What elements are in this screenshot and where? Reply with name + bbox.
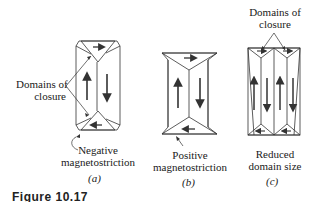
panel-c-caption: (c) — [266, 175, 278, 187]
panel-a-outline — [76, 41, 120, 130]
panel-b-shape — [162, 53, 217, 134]
panel-a-shape — [76, 41, 120, 130]
panel-c-leaders — [262, 33, 285, 50]
panel-b-leader — [178, 139, 183, 146]
label-line: Positive — [150, 149, 230, 161]
panel-c-top-closure-domain-2 — [274, 48, 300, 58]
label-line: Domains of — [238, 6, 312, 18]
label-line: magnetostriction — [60, 156, 136, 168]
label-line: closure — [16, 90, 66, 102]
panel-b-top-closure-domain — [162, 53, 217, 70]
panel-a-magnetostriction-label: Negative magnetostriction — [60, 144, 136, 168]
panel-c-bottom-closure-domain-2 — [274, 124, 300, 135]
panel-b-caption: (b) — [182, 176, 195, 188]
panel-c-top-closure-domain-1 — [248, 48, 274, 58]
label-line: Domains of — [16, 78, 66, 90]
figure-caption: Figure 10.17 — [12, 190, 88, 202]
panel-a-caption: (a) — [88, 172, 101, 184]
label-line: Negative — [60, 144, 136, 156]
panel-c-closure-label: Domains of closure — [238, 6, 312, 30]
panel-c-bottom-closure-domain-1 — [248, 124, 274, 135]
panel-b-bottom-closure-domain — [162, 117, 217, 134]
panel-a-closure-label: Domains of closure — [16, 78, 66, 102]
label-line: closure — [238, 18, 312, 30]
panel-c-reduced-label: Reduced domain size — [238, 148, 312, 172]
label-line: domain size — [238, 160, 312, 172]
panel-c-shape — [248, 48, 300, 135]
panel-b-outline — [162, 53, 217, 134]
label-line: Reduced — [238, 148, 312, 160]
panel-b-magnetostriction-label: Positive magnetostriction — [150, 149, 230, 173]
label-line: magnetostriction — [150, 161, 230, 173]
